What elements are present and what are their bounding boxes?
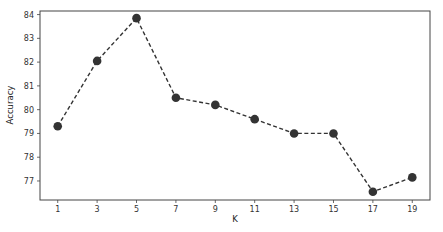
x-tick-label: 13: [289, 205, 299, 214]
y-tick-label: 84: [24, 11, 34, 20]
y-tick-label: 79: [24, 129, 34, 138]
x-tick-label: 5: [134, 205, 139, 214]
x-tick-label: 17: [368, 205, 378, 214]
x-tick-label: 9: [213, 205, 218, 214]
x-axis-label: K: [232, 214, 238, 224]
y-tick-label: 77: [24, 177, 34, 186]
plot-frame: [40, 11, 430, 200]
data-point-marker: [93, 57, 102, 66]
y-tick-label: 82: [24, 58, 34, 67]
x-tick-label: 1: [55, 205, 60, 214]
x-tick-label: 19: [407, 205, 417, 214]
y-tick-label: 83: [24, 34, 34, 43]
data-point-marker: [172, 93, 181, 102]
data-point-marker: [211, 101, 220, 110]
x-axis-ticks: 135791113151719: [55, 200, 417, 214]
y-axis-ticks: 7778798081828384: [24, 11, 40, 186]
y-tick-label: 78: [24, 153, 34, 162]
data-point-marker: [329, 129, 338, 138]
line-chart: 7778798081828384 135791113151719 K Accur…: [0, 0, 443, 232]
y-axis-label: Accuracy: [5, 86, 15, 125]
x-tick-label: 11: [250, 205, 260, 214]
y-tick-label: 81: [24, 82, 34, 91]
x-tick-label: 15: [328, 205, 338, 214]
data-point-marker: [369, 187, 378, 196]
data-point-marker: [290, 129, 299, 138]
data-point-marker: [132, 14, 141, 23]
y-tick-label: 80: [24, 106, 34, 115]
data-point-marker: [408, 173, 417, 182]
x-tick-label: 7: [173, 205, 178, 214]
x-tick-label: 3: [95, 205, 100, 214]
data-point-marker: [250, 115, 259, 124]
data-point-marker: [53, 122, 62, 131]
